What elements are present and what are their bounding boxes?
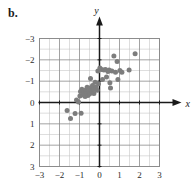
data-point <box>104 74 109 79</box>
data-point <box>65 108 70 113</box>
data-points <box>65 51 138 121</box>
data-point <box>111 53 116 58</box>
x-tick-label: 1 <box>117 170 122 180</box>
x-tick-label: 0 <box>97 170 102 180</box>
data-point <box>88 76 93 81</box>
data-point <box>115 77 120 82</box>
x-tick-labels: −3−2−10123 <box>35 170 163 180</box>
data-point <box>79 111 84 116</box>
y-tick-label: 2 <box>30 140 35 150</box>
data-point <box>108 85 113 90</box>
x-axis-label: x <box>185 98 191 109</box>
x-tick-label: −3 <box>35 170 45 180</box>
y-tick-label: 0 <box>30 98 35 108</box>
data-point <box>96 81 101 86</box>
data-point <box>76 100 81 105</box>
x-tick-label: −2 <box>55 170 65 180</box>
y-tick-label: 1 <box>30 119 35 129</box>
data-point <box>107 80 112 85</box>
y-tick-label: −1 <box>25 76 35 86</box>
data-point <box>127 68 132 73</box>
y-tick-label: −3 <box>25 34 35 44</box>
y-tick-label: −2 <box>25 55 35 65</box>
data-point <box>113 70 118 75</box>
x-tick-label: 3 <box>157 170 162 180</box>
x-tick-label: −1 <box>75 170 85 180</box>
data-point <box>119 70 124 75</box>
data-point <box>73 111 78 116</box>
figure-container: b. −3−2−10123 3210−1−2−3 x y <box>0 0 191 195</box>
scatter-plot-area: −3−2−10123 3210−1−2−3 x y <box>0 0 191 195</box>
y-axis-label: y <box>93 5 99 16</box>
x-tick-label: 2 <box>137 170 142 180</box>
data-point <box>133 51 138 56</box>
y-tick-labels: 3210−1−2−3 <box>25 34 35 172</box>
data-point <box>95 88 100 93</box>
scatter-plot-svg: −3−2−10123 3210−1−2−3 x y <box>0 0 191 195</box>
data-point <box>68 116 73 121</box>
y-tick-label: 3 <box>30 162 35 172</box>
data-point <box>115 59 120 64</box>
